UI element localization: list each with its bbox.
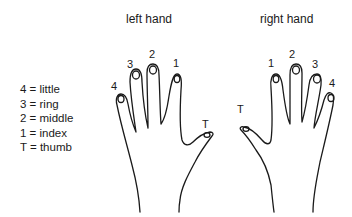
right-ring-nail-icon [314,75,321,83]
left-middle-label: 2 [149,48,155,60]
left-little-label: 4 [111,80,117,92]
left-ring-nail-icon [133,71,140,79]
right-index-nail-icon [273,76,279,83]
right-index-label: 1 [268,57,274,69]
right-little-label: 4 [329,77,335,89]
left-hand-outline-icon [116,64,213,212]
right-ring-label: 3 [312,58,318,70]
right-hand-outline-icon [240,64,333,212]
right-middle-label: 2 [289,48,295,60]
hands-illustration [0,0,352,217]
right-thumb-label: T [237,103,244,115]
left-little-nail-icon [118,96,124,103]
left-ring-label: 3 [127,58,133,70]
left-index-nail-icon [174,76,180,83]
left-index-label: 1 [173,57,179,69]
right-middle-nail-icon [293,66,300,74]
left-thumb-label: T [202,118,209,130]
left-middle-nail-icon [150,66,157,74]
